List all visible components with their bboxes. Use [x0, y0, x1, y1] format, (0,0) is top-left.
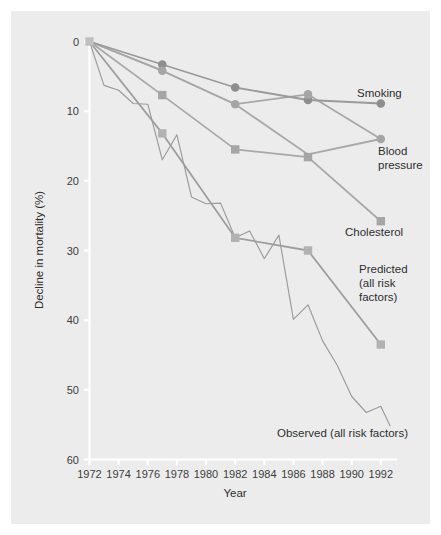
x-tick-label-1988: 1988 [310, 468, 334, 480]
x-tick-label-1980: 1980 [194, 468, 218, 480]
x-tick-label-1982: 1982 [223, 468, 247, 480]
x-tick-label-1974: 1974 [106, 468, 130, 480]
y-tick-label-60: 60 [67, 454, 79, 466]
series-line-smoking [90, 42, 381, 104]
x-tick-label-1972: 1972 [77, 468, 101, 480]
markers-blood-pressure [158, 66, 385, 143]
marker-origin [85, 37, 93, 45]
series-label-smoking: Smoking [357, 87, 402, 99]
series-label-blood-pressure-1: Blood [378, 145, 407, 157]
x-tick-label-1978: 1978 [165, 468, 189, 480]
y-tick-label-0: 0 [73, 36, 79, 48]
y-tick-label-50: 50 [67, 384, 79, 396]
y-tick-label-10: 10 [67, 105, 79, 117]
x-axis-title: Year [223, 487, 246, 499]
markers-predicted [158, 129, 385, 348]
x-tick-label-1976: 1976 [136, 468, 160, 480]
x-tick-label-1992: 1992 [369, 468, 393, 480]
x-tick-label-1984: 1984 [252, 468, 276, 480]
series-label-observed: Observed (all risk factors) [277, 427, 408, 439]
chart-figure: 0 10 20 30 40 50 60 1972 1974 1976 1978 … [0, 0, 441, 535]
markers-cholesterol [158, 91, 385, 226]
chart-svg: 0 10 20 30 40 50 60 1972 1974 1976 1978 … [0, 0, 441, 535]
x-tick-label-1990: 1990 [339, 468, 363, 480]
series-label-predicted-1: Predicted [359, 263, 408, 275]
y-tick-label-30: 30 [67, 245, 79, 257]
series-label-cholesterol: Cholesterol [345, 226, 403, 238]
series-label-predicted-2: (all risk [359, 277, 396, 289]
series-label-predicted-3: factors) [359, 291, 398, 303]
x-tick-label-1986: 1986 [281, 468, 305, 480]
y-tick-label-40: 40 [67, 314, 79, 326]
series-line-cholesterol [90, 42, 381, 222]
y-axis-title: Decline in mortality (%) [33, 191, 45, 309]
y-tick-label-20: 20 [67, 175, 79, 187]
series-label-blood-pressure-2: pressure [378, 159, 423, 171]
